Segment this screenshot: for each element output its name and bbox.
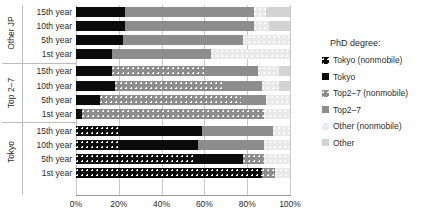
bar-segment-top xyxy=(125,21,253,31)
legend-swatch-other xyxy=(322,139,329,146)
bar-segment-top xyxy=(204,66,258,76)
bar-segment-other xyxy=(266,7,290,17)
x-tick-label: 20% xyxy=(99,199,139,209)
legend-label: Other (nonmobile) xyxy=(333,121,402,131)
bar-segment-top_nm xyxy=(100,95,241,105)
bar-row xyxy=(76,21,290,31)
bar-segment-other_nm xyxy=(254,7,267,17)
bar-segment-top_nm xyxy=(262,168,275,178)
bar-row xyxy=(76,109,290,119)
bar-row xyxy=(76,168,290,178)
legend-items: Tokyo (nonmobile)TokyoTop2–7 (nonmobile)… xyxy=(322,55,421,148)
bar-row xyxy=(76,95,290,105)
bar-segment-top xyxy=(224,81,263,91)
bar-segment-top xyxy=(202,126,273,136)
group-label-text: Top 2–7 xyxy=(6,77,16,107)
category-axis: 15th year10th year5th year1st yearOther … xyxy=(0,5,76,195)
bar-segment-top xyxy=(125,7,253,17)
category-label: 10th year xyxy=(37,19,72,33)
category-label: 5th year xyxy=(41,93,72,107)
legend: PhD degree: Tokyo (nonmobile)TokyoTop2–7… xyxy=(322,38,421,154)
bar-segment-tokyo xyxy=(76,81,115,91)
bar-segment-other_nm xyxy=(264,109,290,119)
bar-segment-other_nm xyxy=(264,140,290,150)
bar-segment-top xyxy=(198,140,264,150)
category-label: 5th year xyxy=(41,152,72,166)
bar-segment-top xyxy=(241,95,267,105)
bar-segment-top_nm xyxy=(82,109,264,119)
bar-segment-tokyo xyxy=(76,7,125,17)
legend-item[interactable]: Top2–7 (nonmobile) xyxy=(322,88,421,98)
bar-segment-other_nm xyxy=(273,126,290,136)
x-tick-label: 100% xyxy=(270,199,310,209)
x-tick-label: 60% xyxy=(184,199,224,209)
legend-label: Top2–7 xyxy=(333,105,361,115)
bar-segment-other_nm xyxy=(254,21,269,31)
category-label: 1st year xyxy=(42,107,72,121)
bar-segment-tokyo xyxy=(76,95,100,105)
legend-swatch-top_nm xyxy=(322,90,329,97)
bar-segment-other_nm xyxy=(264,154,290,164)
category-label: 10th year xyxy=(37,79,72,93)
bar-row xyxy=(76,154,290,164)
group-label: Other JP xyxy=(0,5,22,61)
plot-area xyxy=(76,5,290,195)
group-label: Top 2–7 xyxy=(0,64,22,120)
category-label: 15th year xyxy=(37,5,72,19)
category-label: 15th year xyxy=(37,64,72,78)
group-label: Tokyo xyxy=(0,124,22,180)
bar-segment-tokyo xyxy=(121,140,198,150)
bar-segment-other_nm xyxy=(243,35,290,45)
bar-row xyxy=(76,140,290,150)
bar-segment-other_nm xyxy=(262,81,279,91)
legend-item[interactable]: Top2–7 xyxy=(322,105,421,115)
bar-segment-tokyo_nm xyxy=(76,126,121,136)
legend-item[interactable]: Other xyxy=(322,138,421,148)
bar-segment-tokyo xyxy=(76,66,112,76)
bar-segment-top xyxy=(123,35,243,45)
category-label: 1st year xyxy=(42,166,72,180)
category-label: 10th year xyxy=(37,138,72,152)
bar-segment-other xyxy=(269,21,290,31)
bar-row xyxy=(76,126,290,136)
bar-segment-other xyxy=(279,66,290,76)
category-label: 5th year xyxy=(41,33,72,47)
legend-label: Tokyo (nonmobile) xyxy=(333,55,402,65)
bar-row xyxy=(76,81,290,91)
bar-row xyxy=(76,35,290,45)
legend-swatch-top xyxy=(322,106,329,113)
legend-item[interactable]: Other (nonmobile) xyxy=(322,121,421,131)
legend-swatch-other_nm xyxy=(322,123,329,130)
bar-segment-tokyo xyxy=(196,154,243,164)
category-label: 1st year xyxy=(42,47,72,61)
bar-row xyxy=(76,7,290,17)
legend-item[interactable]: Tokyo xyxy=(322,72,421,82)
category-label: 15th year xyxy=(37,124,72,138)
legend-swatch-tokyo xyxy=(322,73,329,80)
legend-label: Top2–7 (nonmobile) xyxy=(333,88,408,98)
bar-segment-tokyo xyxy=(76,49,112,59)
bar-segment-tokyo xyxy=(76,21,125,31)
legend-title: PhD degree: xyxy=(330,38,421,48)
gridline-100 xyxy=(290,5,291,195)
bar-segment-other_nm xyxy=(211,49,290,59)
category-axis-left-border xyxy=(22,5,23,195)
legend-item[interactable]: Tokyo (nonmobile) xyxy=(322,55,421,65)
bar-segment-tokyo xyxy=(121,126,202,136)
group-label-text: Tokyo xyxy=(6,141,16,163)
bar-segment-other_nm xyxy=(266,95,290,105)
legend-label: Other xyxy=(333,138,354,148)
bar-segment-tokyo_nm xyxy=(76,140,121,150)
legend-swatch-tokyo_nm xyxy=(322,57,329,64)
bar-segment-other_nm xyxy=(275,168,290,178)
legend-label: Tokyo xyxy=(333,72,355,82)
group-label-text: Other JP xyxy=(6,16,16,50)
bar-segment-top xyxy=(112,49,210,59)
bar-segment-top_nm xyxy=(243,154,264,164)
bar-segment-tokyo_nm xyxy=(76,154,196,164)
bar-segment-other_nm xyxy=(258,66,279,76)
bar-row xyxy=(76,49,290,59)
x-axis-line xyxy=(76,195,291,196)
chart-root: 15th year10th year5th year1st yearOther … xyxy=(0,0,421,220)
bar-segment-top_nm xyxy=(115,81,224,91)
